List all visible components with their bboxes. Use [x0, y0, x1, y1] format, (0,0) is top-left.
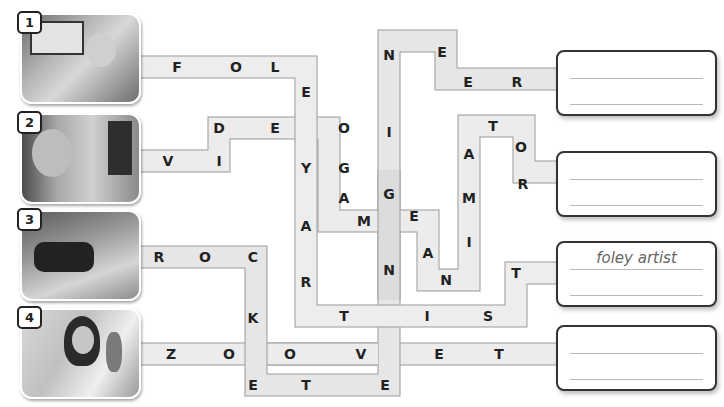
answer-box-3[interactable]: foley artist	[556, 241, 717, 307]
maze-letter: N	[440, 272, 452, 288]
maze-letter: E	[301, 84, 311, 100]
maze-letter: M	[357, 213, 371, 229]
maze-letter: O	[515, 139, 527, 155]
maze-letter: Y	[300, 160, 312, 176]
maze-letter: E	[248, 377, 258, 393]
maze-letter: T	[301, 377, 311, 393]
answer-box-1[interactable]	[556, 50, 717, 116]
maze-letter: Z	[166, 346, 176, 362]
person-face	[72, 326, 94, 354]
maze-letter: O	[223, 346, 235, 362]
example-answer: foley artist	[558, 249, 715, 267]
maze-letter: N	[383, 262, 395, 278]
person-body	[34, 242, 94, 272]
maze-letter: O	[338, 120, 350, 136]
maze-letter: I	[216, 153, 221, 169]
maze-letter: R	[301, 274, 312, 290]
answer-line	[570, 78, 703, 79]
maze-letter: C	[248, 249, 258, 265]
answer-line	[570, 179, 703, 180]
answer-line	[570, 205, 703, 206]
maze-letter: V	[163, 153, 174, 169]
maze-letter: A	[423, 245, 434, 261]
maze-letter: S	[483, 308, 493, 324]
screen-panel	[108, 121, 132, 175]
maze-letter: L	[271, 59, 280, 75]
maze-letter: T	[488, 118, 498, 134]
number-badge-1: 1	[17, 11, 42, 34]
maze-letter: R	[512, 74, 523, 90]
maze-letter: O	[230, 59, 242, 75]
answer-line	[570, 353, 703, 354]
maze-letter: A	[464, 146, 475, 162]
maze-letter: E	[437, 44, 447, 60]
maze-letter: T	[339, 308, 349, 324]
answer-box-2[interactable]	[556, 151, 717, 217]
person-head	[32, 129, 72, 177]
maze-letter: O	[199, 249, 211, 265]
maze-letter: E	[380, 377, 390, 393]
maze-letter: D	[213, 120, 225, 136]
maze-letter: M	[462, 190, 476, 206]
answer-line	[570, 269, 703, 270]
answer-line	[570, 104, 703, 105]
number-badge-3: 3	[17, 208, 42, 231]
maze-letter: G	[383, 186, 395, 202]
maze-letter: I	[424, 308, 429, 324]
maze-letter: O	[284, 346, 296, 362]
maze-letter: G	[338, 160, 350, 176]
maze-letter: A	[301, 218, 312, 234]
parrot	[106, 332, 122, 372]
maze-letter: N	[383, 47, 395, 63]
maze-letter: I	[386, 124, 391, 140]
maze-letter: E	[463, 74, 473, 90]
maze-letter: E	[409, 208, 419, 224]
maze-letter: T	[511, 265, 521, 281]
maze-letter: F	[172, 59, 182, 75]
maze-letter: E	[270, 120, 280, 136]
number-badge-4: 4	[17, 306, 42, 329]
maze-letter: T	[494, 346, 504, 362]
maze-letter: I	[466, 234, 471, 250]
maze-letter: V	[356, 346, 367, 362]
maze-letter: A	[339, 190, 350, 206]
answer-box-4[interactable]	[556, 325, 717, 391]
number-badge-2: 2	[17, 111, 42, 134]
maze-letter: K	[248, 310, 260, 326]
maze-letter: R	[154, 249, 165, 265]
maze-letter: R	[518, 176, 529, 192]
maze-letter: E	[434, 346, 444, 362]
person-head	[86, 33, 116, 67]
answer-line	[570, 379, 703, 380]
answer-line	[570, 295, 703, 296]
